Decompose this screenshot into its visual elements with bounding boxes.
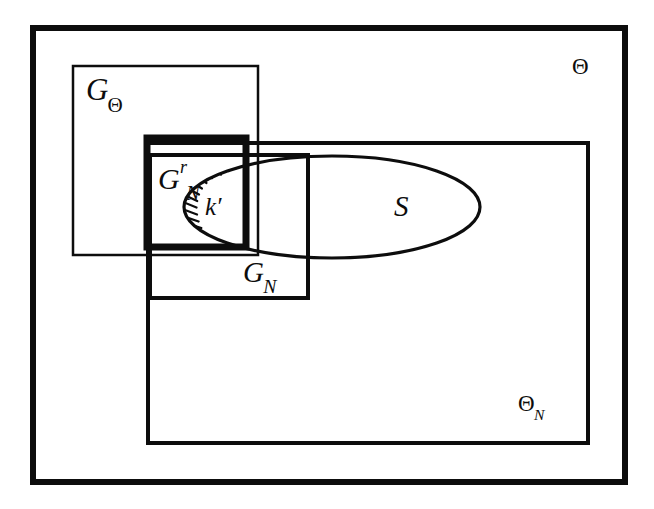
label-s-base: S — [394, 190, 409, 222]
label-s: S — [394, 192, 409, 221]
label-g-theta-sub: Θ — [108, 93, 123, 117]
label-theta-n: ΘN — [518, 392, 545, 419]
label-g-n-sub: N — [263, 275, 276, 297]
label-g-n-r: GrN — [158, 163, 200, 199]
label-k-prime-base: k′ — [205, 193, 222, 220]
figure-canvas: Θ GΘ ΘN GrN GN S k′ — [0, 0, 654, 509]
label-g-n-r-sub: N — [186, 182, 200, 204]
label-g-theta: GΘ — [86, 74, 124, 111]
label-k-prime: k′ — [205, 194, 222, 219]
label-theta-n-base: Θ — [518, 391, 535, 416]
label-g-theta-base: G — [86, 72, 108, 107]
label-g-n-base: G — [243, 256, 264, 288]
s-ellipse — [184, 156, 480, 258]
label-theta-base: Θ — [572, 54, 589, 79]
label-theta-n-sub: N — [534, 406, 544, 423]
label-g-n-r-sup: r — [180, 157, 187, 177]
label-g-n-r-base: G — [158, 162, 180, 195]
label-theta: Θ — [572, 55, 589, 78]
label-g-n: GN — [243, 258, 277, 293]
